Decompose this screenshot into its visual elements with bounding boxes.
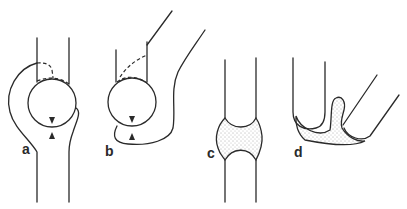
panel-label-a: a [22, 142, 30, 156]
diagram-canvas [0, 0, 407, 209]
panel-c-drawing [216, 58, 262, 202]
panel-label-d: d [294, 145, 303, 159]
joint-diagram-figure: a b c d [0, 0, 407, 209]
panel-d-drawing [293, 58, 399, 145]
panel-label-c: c [207, 146, 215, 160]
panel-label-b: b [105, 144, 114, 158]
panel-b-drawing [108, 11, 205, 144]
panel-a-drawing [9, 38, 79, 202]
